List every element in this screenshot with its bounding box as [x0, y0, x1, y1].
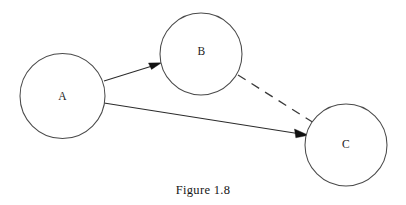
node-c-label: C — [342, 138, 350, 150]
diagram-canvas: A B C — [0, 0, 406, 205]
arrowhead-a-to-b — [149, 63, 162, 70]
node-b-label: B — [198, 45, 206, 57]
node-b[interactable]: B — [160, 13, 242, 95]
node-a-label: A — [58, 90, 67, 102]
edge-a-to-c-line — [104, 103, 296, 133]
edge-a-to-b-line — [104, 65, 157, 82]
figure-caption: Figure 1.8 — [0, 183, 406, 198]
edge-b-to-c — [238, 75, 314, 123]
figure-container: A B C Figure 1.8 — [0, 0, 406, 205]
edge-a-to-b — [104, 63, 162, 81]
edge-a-to-c — [104, 103, 309, 138]
node-c[interactable]: C — [305, 104, 387, 186]
edge-b-to-c-line — [238, 75, 314, 123]
node-a[interactable]: A — [20, 54, 105, 139]
